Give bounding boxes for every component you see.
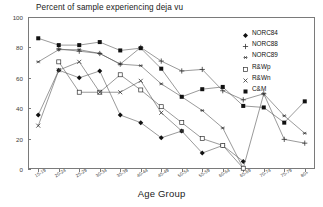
legend-item-R&Wn[interactable]: R&Wn — [240, 72, 278, 83]
y-tick-mark — [28, 169, 31, 170]
y-tick-mark — [28, 47, 31, 48]
chart-container: Percent of sample experiencing deja vu 0… — [0, 0, 323, 207]
y-tick-mark — [28, 17, 31, 18]
y-tick-label-60: 60 — [1, 74, 23, 81]
x-tick-label-45-49: 45-49 — [157, 168, 170, 178]
asterisk-icon — [240, 49, 251, 60]
x-tick-label-55-59: 55-59 — [198, 168, 211, 178]
x-tick-label-80+: 80+ — [300, 170, 309, 178]
y-tick-label-40: 40 — [1, 105, 23, 112]
plus-icon — [240, 38, 251, 49]
legend-item-R&Wp[interactable]: R&Wp — [240, 61, 278, 72]
legend-item-NORC88[interactable]: NORC88 — [240, 38, 278, 49]
x-tick-label-20-24: 20-24 — [54, 168, 67, 178]
x-tick-label-65-69: 65-69 — [239, 168, 252, 178]
legend-label: NORC89 — [252, 51, 278, 58]
x-tick-label-25-29: 25-29 — [75, 168, 88, 178]
y-tick-mark — [28, 78, 31, 79]
x-tick-label-15-19: 15-19 — [34, 168, 47, 178]
y-tick-label-20: 20 — [1, 135, 23, 142]
chart-title: Percent of sample experiencing deja vu — [36, 3, 183, 12]
x-tick-label-35-39: 35-39 — [116, 168, 129, 178]
legend-label: C&M — [252, 85, 266, 92]
y-tick-mark — [28, 108, 31, 109]
filled-diamond-icon — [240, 27, 251, 38]
legend-label: NORC88 — [252, 40, 278, 47]
x-axis-title: Age Group — [0, 188, 323, 199]
filled-square-icon — [240, 83, 251, 94]
chart-legend: NORC84NORC88NORC89R&WpR&WnC&M — [240, 27, 278, 94]
x-tick-label-50-54: 50-54 — [177, 168, 190, 178]
x-tick-label-75-79: 75-79 — [280, 168, 293, 178]
x-cross-icon — [240, 72, 251, 83]
x-tick-label-30-34: 30-34 — [95, 168, 108, 178]
legend-label: R&Wp — [252, 63, 270, 70]
legend-item-NORC84[interactable]: NORC84 — [240, 27, 278, 38]
x-tick-label-70-74: 70-74 — [259, 168, 272, 178]
legend-label: R&Wn — [252, 74, 270, 81]
legend-item-C&M[interactable]: C&M — [240, 83, 278, 94]
legend-label: NORC84 — [252, 29, 278, 36]
open-square-icon — [240, 61, 251, 72]
x-tick-label-60-64: 60-64 — [218, 168, 231, 178]
y-tick-label-100: 100 — [1, 14, 23, 21]
y-tick-mark — [28, 139, 31, 140]
y-tick-label-80: 80 — [1, 44, 23, 51]
x-tick-label-40-44: 40-44 — [136, 168, 149, 178]
legend-item-NORC89[interactable]: NORC89 — [240, 49, 278, 60]
y-tick-label-0: 0 — [1, 166, 23, 173]
